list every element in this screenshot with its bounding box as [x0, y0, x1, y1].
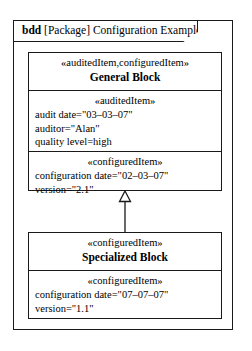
compartment-stereotype: «configuredItem»: [35, 274, 215, 288]
compartment-configured-item: «configuredItem» configuration date="07–…: [29, 270, 221, 320]
property-auditor: auditor="Alan": [35, 122, 215, 136]
block-general-block[interactable]: «auditedItem,configuredItem» General Blo…: [28, 52, 222, 191]
block-stereotype: «configuredItem»: [35, 236, 215, 250]
diagram-frame: bdd [Package] Configuration Example «aud…: [13, 20, 233, 330]
block-header-compartment: «auditedItem,configuredItem» General Blo…: [29, 53, 221, 90]
block-specialized-block[interactable]: «configuredItem» Specialized Block «conf…: [28, 232, 222, 319]
block-name: Specialized Block: [35, 250, 215, 265]
frame-label: bdd [Package] Configuration Example: [14, 25, 198, 37]
block-stereotype: «auditedItem,configuredItem»: [35, 56, 215, 70]
compartment-configured-item: «configuredItem» configuration date="02–…: [29, 151, 221, 192]
compartment-stereotype: «auditedItem»: [35, 94, 215, 108]
frame-name-tab: bdd [Package] Configuration Example: [14, 21, 198, 42]
property-quality-level: quality level=high: [35, 135, 215, 149]
block-header-compartment: «configuredItem» Specialized Block: [29, 233, 221, 270]
property-version: version="1.1": [35, 302, 215, 316]
block-name: General Block: [35, 70, 215, 85]
frame-kind-label: bdd: [22, 24, 41, 36]
compartment-audited-item: «auditedItem» audit date="03–03–07" audi…: [29, 90, 221, 151]
property-configuration-date: configuration date="02–03–07": [35, 169, 215, 183]
compartment-stereotype: «configuredItem»: [35, 155, 215, 169]
property-configuration-date: configuration date="07–07–07": [35, 288, 215, 302]
frame-title-label: [Package] Configuration Example: [41, 24, 198, 36]
property-version: version="2.1": [35, 183, 215, 197]
property-audit-date: audit date="03–03–07": [35, 108, 215, 122]
